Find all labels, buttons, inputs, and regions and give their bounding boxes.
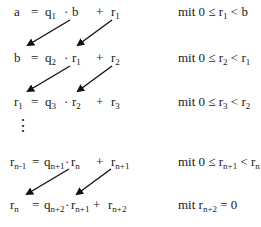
arrow-down-left-icon bbox=[78, 20, 112, 45]
diagonal-arrows bbox=[0, 0, 261, 227]
arrow-down-left-icon bbox=[28, 20, 70, 45]
arrow-down-left-icon bbox=[78, 66, 112, 91]
arrow-down-left-icon bbox=[27, 169, 69, 194]
arrow-down-left-icon bbox=[77, 169, 111, 194]
euclidean-algorithm-diagram: a = q1 · b + r1 mit 0 ≤ r1 < b b = q2 · … bbox=[0, 0, 261, 227]
arrow-down-left-icon bbox=[28, 66, 70, 91]
